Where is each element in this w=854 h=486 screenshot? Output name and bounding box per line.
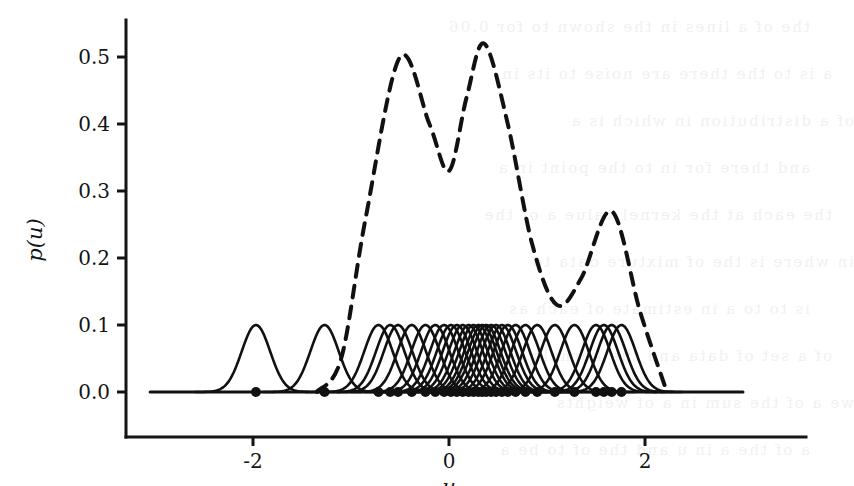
y-axis-ticks: 0.00.10.20.30.40.5 bbox=[78, 45, 126, 404]
x-tick-label: -2 bbox=[243, 449, 262, 473]
sample-point-marker bbox=[251, 387, 261, 397]
sample-point-marker bbox=[430, 387, 440, 397]
y-tick-label: 0.0 bbox=[78, 380, 110, 404]
sample-point-marker bbox=[520, 387, 530, 397]
y-tick-label: 0.5 bbox=[78, 45, 110, 69]
x-tick-label: 2 bbox=[639, 449, 652, 473]
kernel-component-curve bbox=[264, 325, 385, 392]
sample-point-marker bbox=[532, 387, 542, 397]
y-tick-label: 0.3 bbox=[78, 179, 110, 203]
sample-point-marker bbox=[550, 387, 560, 397]
sample-point-marker bbox=[393, 387, 403, 397]
kernel-component-curves bbox=[195, 325, 682, 392]
x-axis-ticks: -202 bbox=[243, 437, 651, 473]
x-tick-label: 0 bbox=[443, 449, 456, 473]
y-axis-label: p(u) bbox=[23, 218, 47, 261]
sample-point-marker bbox=[373, 387, 383, 397]
sample-point-marker bbox=[569, 387, 579, 397]
sample-point-marker bbox=[607, 387, 617, 397]
y-tick-label: 0.4 bbox=[78, 112, 110, 136]
sample-point-marker bbox=[616, 387, 626, 397]
x-axis-label: u bbox=[442, 475, 456, 486]
sample-point-marker bbox=[511, 387, 521, 397]
y-tick-label: 0.1 bbox=[78, 313, 110, 337]
sample-point-marker bbox=[407, 387, 417, 397]
y-tick-label: 0.2 bbox=[78, 246, 110, 270]
sample-point-marker bbox=[320, 387, 330, 397]
sample-point-marker bbox=[420, 387, 430, 397]
